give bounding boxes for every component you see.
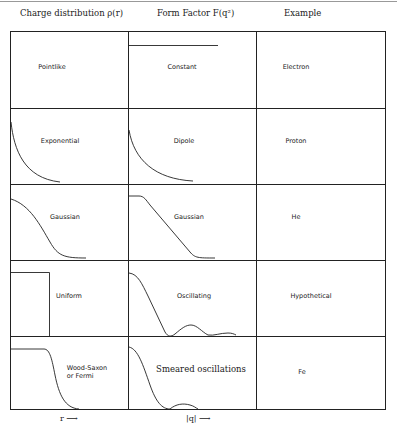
curve-gaussian-form-factor xyxy=(129,196,215,258)
curve-gaussian-distribution xyxy=(11,199,86,258)
label-wood-saxon: Wood-Saxon or Fermi xyxy=(67,364,107,380)
label-electron: Electron xyxy=(283,63,310,71)
axis-label-q: |q| ⟶ xyxy=(186,414,211,423)
label-pointlike: Pointlike xyxy=(38,63,65,71)
curve-exponential xyxy=(11,122,60,182)
label-gaussian-distribution: Gaussian xyxy=(50,213,80,221)
axis-label-r: r ⟶ xyxy=(60,414,78,423)
label-exponential: Exponential xyxy=(41,137,79,145)
label-dipole: Dipole xyxy=(174,137,195,145)
label-smeared-oscillations: Smeared oscillations xyxy=(156,364,246,375)
curve-oscillating xyxy=(129,273,236,336)
label-uniform: Uniform xyxy=(56,292,82,300)
label-he: He xyxy=(292,213,301,221)
label-fe: Fe xyxy=(298,368,305,376)
label-hypothetical: Hypothetical xyxy=(290,292,331,300)
label-proton: Proton xyxy=(286,137,307,145)
curve-uniform xyxy=(11,273,50,337)
curve-smeared-oscillations xyxy=(129,347,198,409)
label-gaussian-form-factor: Gaussian xyxy=(174,213,204,221)
label-oscillating: Oscillating xyxy=(177,292,211,300)
label-constant: Constant xyxy=(167,63,196,71)
